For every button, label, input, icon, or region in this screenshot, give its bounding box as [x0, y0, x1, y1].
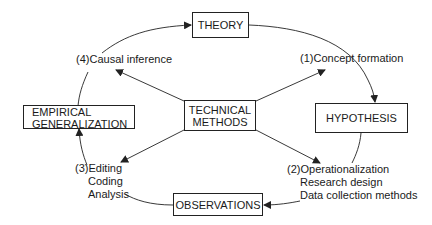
node-empirical-line2: GENERALIZATION	[32, 118, 127, 130]
step-3-line2: Coding	[75, 175, 129, 188]
arrow-technical-to-step3	[121, 130, 184, 162]
node-technical-line1: TECHNICAL	[189, 104, 251, 116]
step-2-label: (2)Operationalization Research design Da…	[287, 163, 417, 202]
step-4-number: (4)	[76, 53, 89, 65]
step-1-number: (1)	[300, 52, 313, 64]
node-hypothesis: HYPOTHESIS	[315, 103, 408, 133]
step-3-label: (3)Editing Coding Analysis	[75, 162, 129, 201]
arrow-causal-to-theory	[102, 25, 191, 53]
step-3-line3: Analysis	[75, 188, 129, 201]
step-3-line1: Editing	[88, 162, 122, 174]
arrow-technical-to-step1	[256, 70, 325, 101]
arrow-technical-to-step2	[256, 130, 320, 163]
node-theory-label: THEORY	[198, 19, 244, 31]
node-observations-label: OBSERVATIONS	[176, 199, 261, 211]
arrow-observations-to-empirical	[125, 194, 173, 205]
step-2-line1: Operationalization	[300, 163, 389, 175]
node-technical-methods: TECHNICAL METHODS	[184, 100, 256, 131]
node-hypothesis-label: HYPOTHESIS	[326, 112, 397, 124]
node-theory: THEORY	[192, 12, 249, 38]
node-observations: OBSERVATIONS	[173, 193, 263, 216]
arrow-observations-to-empirical-head	[79, 129, 87, 165]
step-1-label: (1)Concept formation	[300, 52, 403, 65]
step-1-text: Concept formation	[313, 52, 403, 64]
step-2-line3: Data collection methods	[287, 189, 417, 202]
step-3-number: (3)	[75, 162, 88, 174]
arrow-hypothesis-to-observations	[352, 133, 361, 163]
node-empirical-line1: EMPIRICAL	[32, 106, 91, 118]
step-4-text: Causal inference	[89, 53, 172, 65]
node-empirical-generalization: EMPIRICAL GENERALIZATION	[23, 105, 135, 129]
node-technical-line2: METHODS	[193, 116, 248, 128]
step-2-number: (2)	[287, 163, 300, 175]
step-4-label: (4)Causal inference	[76, 53, 172, 66]
step-2-line2: Research design	[287, 176, 417, 189]
arrow-technical-to-step4	[116, 70, 184, 101]
arrow-empirical-to-causal	[78, 72, 88, 106]
